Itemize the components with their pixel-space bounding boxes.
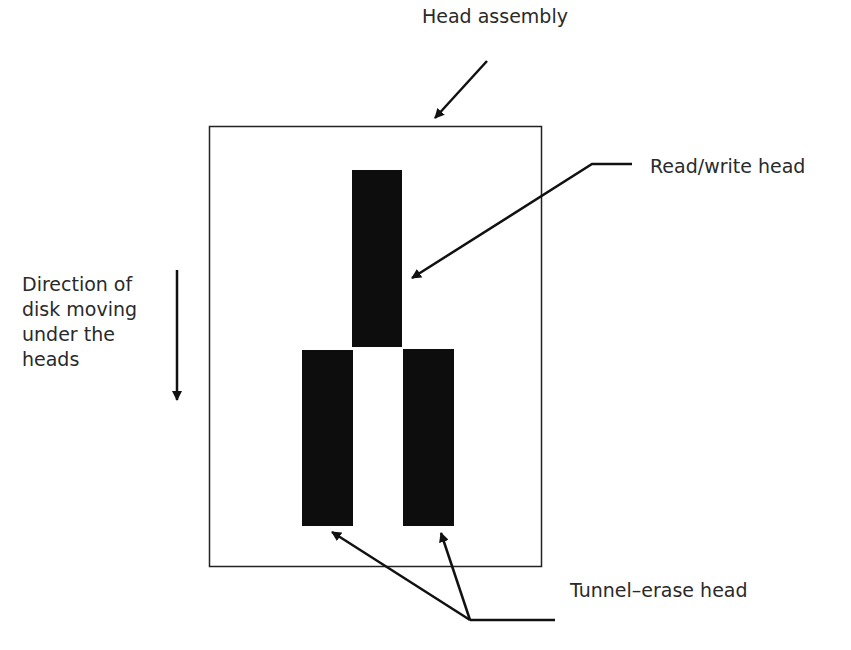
- tunnel-erase-head-right-block: [403, 349, 454, 526]
- tunnel-erase-arrow-left: [332, 532, 470, 620]
- direction-label-line-2: disk moving: [22, 297, 162, 322]
- direction-label-line-1: Direction of: [22, 272, 162, 297]
- direction-label: Direction of disk moving under the heads: [22, 272, 162, 372]
- head-assembly-arrow: [435, 61, 487, 118]
- read-write-leader-line: [412, 164, 632, 278]
- read-write-head-block: [352, 170, 402, 347]
- tunnel-erase-head-left-block: [302, 350, 353, 526]
- tunnel-erase-arrow-right: [441, 533, 470, 620]
- tunnel-erase-head-label: Tunnel–erase head: [570, 578, 748, 603]
- direction-label-line-3: under the: [22, 322, 162, 347]
- read-write-head-label: Read/write head: [650, 154, 805, 179]
- head-assembly-label: Head assembly: [422, 4, 568, 29]
- direction-label-line-4: heads: [22, 347, 162, 372]
